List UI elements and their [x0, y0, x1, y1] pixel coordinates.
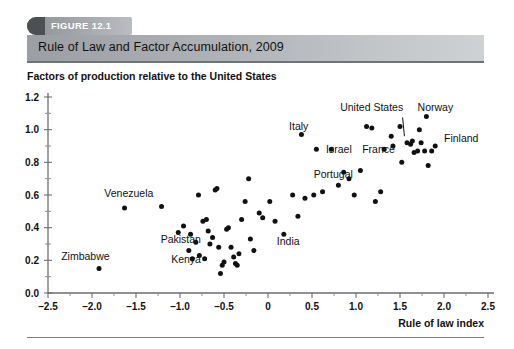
x-tick-label: 0.5 — [305, 301, 319, 312]
point-annotation: Zimbabwe — [61, 250, 110, 262]
x-tick-label: 1.0 — [349, 301, 363, 312]
point-annotation: Pakistan — [161, 233, 201, 245]
x-tick-label: 2.0 — [437, 301, 451, 312]
data-point — [122, 206, 127, 211]
data-point — [251, 248, 256, 253]
data-point — [260, 215, 265, 220]
data-point — [216, 245, 221, 250]
data-point — [97, 266, 102, 271]
figure-bottom-rule — [27, 337, 484, 338]
data-point — [206, 228, 211, 233]
y-tick-label: 0.0 — [25, 288, 39, 299]
data-point — [273, 219, 278, 224]
data-point — [235, 263, 240, 268]
data-point — [336, 183, 341, 188]
y-tick-label: 0.6 — [25, 190, 39, 201]
x-tick-label: –0.5 — [214, 301, 234, 312]
x-tick-label: –1.0 — [170, 301, 190, 312]
data-point — [398, 124, 403, 129]
scatter-plot-svg: –2.5–2.0–1.5–1.0–0.500.51.01.52.02.50.00… — [0, 0, 514, 349]
data-point — [196, 193, 201, 198]
data-point — [424, 114, 429, 119]
data-point — [311, 193, 316, 198]
data-point — [358, 168, 363, 173]
data-point — [210, 235, 215, 240]
x-tick-label: 0 — [265, 301, 271, 312]
data-point — [181, 224, 186, 229]
x-tick-label: 1.5 — [393, 301, 407, 312]
data-point — [299, 132, 304, 137]
point-annotation: Norway — [418, 101, 454, 113]
data-point — [320, 189, 325, 194]
point-annotation: France — [362, 143, 395, 155]
data-point — [302, 196, 307, 201]
data-point — [352, 193, 357, 198]
data-point — [202, 256, 207, 261]
data-point — [239, 217, 244, 222]
data-point — [417, 127, 422, 132]
point-annotation: Israel — [326, 143, 352, 155]
x-axis-title: Rule of law index — [398, 317, 484, 329]
data-point — [364, 124, 369, 129]
y-tick-label: 1.0 — [25, 124, 39, 135]
x-tick-label: –2.0 — [82, 301, 102, 312]
data-point — [248, 237, 253, 242]
data-point — [207, 242, 212, 247]
data-point — [389, 134, 394, 139]
data-point — [243, 199, 248, 204]
y-tick-label: 0.8 — [25, 157, 39, 168]
y-tick-label: 0.4 — [25, 222, 39, 233]
data-point — [222, 259, 227, 264]
point-annotation: Kenya — [171, 253, 201, 265]
data-point — [410, 139, 415, 144]
data-point — [373, 199, 378, 204]
data-point — [267, 199, 272, 204]
data-point — [419, 140, 424, 145]
plot-leader-lines — [403, 117, 405, 136]
scatter-plot: –2.5–2.0–1.5–1.0–0.500.51.01.52.02.50.00… — [0, 0, 514, 349]
data-point — [399, 160, 404, 165]
data-point — [204, 217, 209, 222]
data-point — [257, 210, 262, 215]
data-point — [246, 176, 251, 181]
data-point — [429, 148, 434, 153]
data-point — [314, 147, 319, 152]
data-point — [159, 204, 164, 209]
data-point — [295, 214, 300, 219]
y-tick-label: 0.2 — [25, 255, 39, 266]
plot-tick-labels: –2.5–2.0–1.5–1.0–0.500.51.01.52.02.50.00… — [25, 92, 495, 313]
x-tick-label: –2.5 — [38, 301, 58, 312]
figure-root: FIGURE 12.1 Rule of Law and Factor Accum… — [0, 0, 514, 349]
data-point — [290, 193, 295, 198]
point-annotation: India — [277, 235, 300, 247]
annotation-leader-line — [403, 117, 405, 136]
point-annotation: Finland — [444, 132, 479, 144]
point-annotation: Italy — [289, 120, 309, 132]
point-annotation: United States — [340, 101, 403, 113]
x-tick-label: –1.5 — [126, 301, 146, 312]
point-annotation: Venezuela — [104, 187, 153, 199]
data-point — [226, 225, 231, 230]
data-point — [426, 163, 431, 168]
data-point — [369, 126, 374, 131]
data-point — [229, 245, 234, 250]
data-point — [415, 148, 420, 153]
plot-annotations: VenezuelaZimbabwePakistanKenyaIndiaItaly… — [61, 101, 478, 265]
data-point — [236, 251, 241, 256]
data-point — [218, 271, 223, 276]
data-point — [433, 144, 438, 149]
y-tick-label: 1.2 — [25, 92, 39, 103]
point-annotation: Portugal — [314, 168, 353, 180]
data-point — [231, 255, 236, 260]
x-tick-label: 2.5 — [481, 301, 495, 312]
data-point — [214, 186, 219, 191]
data-point — [422, 148, 427, 153]
data-point — [378, 189, 383, 194]
